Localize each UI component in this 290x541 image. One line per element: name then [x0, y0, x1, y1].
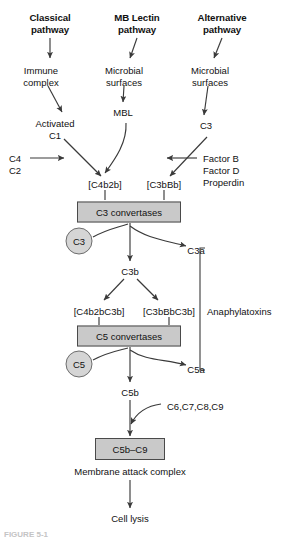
node-c3bbb: [C3bBb]	[147, 179, 181, 191]
node-microbial-surfaces-lectin: Microbialsurfaces	[105, 65, 143, 88]
complement-pathway-figure: Classicalpathway MB Lectinpathway Altern…	[0, 0, 290, 541]
activated-c1-line1: Activated	[35, 118, 74, 129]
microbial-surfaces-lectin-line2: surfaces	[106, 77, 142, 88]
anaphylatoxins-bracket	[200, 248, 205, 370]
header-classical-pathway: Classicalpathway	[29, 12, 70, 36]
immune-complex-line2: complex	[23, 77, 58, 88]
header-mb-lectin-line2: pathway	[118, 24, 156, 35]
node-microbial-surfaces-alternative: Microbialsurfaces	[191, 65, 229, 88]
node-cell-lysis: Cell lysis	[111, 513, 148, 525]
node-c5b: C5b	[121, 387, 138, 399]
activated-c1-line2: C1	[49, 130, 61, 141]
header-classical-line2: pathway	[31, 24, 69, 35]
header-alternative-line2: pathway	[203, 24, 241, 35]
figure-caption: FIGURE 5-1	[4, 530, 48, 539]
microbial-surfaces-lectin-line1: Microbial	[105, 65, 143, 76]
label-anaphylatoxins: Anaphylatoxins	[207, 306, 271, 318]
node-c3bbbc3b: [C3bBbC3b]	[143, 306, 195, 318]
node-factor-d: Factor D	[203, 165, 239, 177]
box-c5-convertases: C5 convertases	[77, 326, 181, 347]
header-alternative-line1: Alternative	[198, 12, 247, 23]
node-c4b2bc3b: [C4b2bC3b]	[74, 306, 125, 318]
circle-c3-substrate: C3	[66, 228, 93, 255]
node-immune-complex: Immunecomplex	[23, 65, 58, 88]
microbial-surfaces-alt-line1: Microbial	[191, 65, 229, 76]
node-c4b2b: [C4b2b]	[88, 179, 121, 191]
header-classical-line1: Classical	[29, 12, 70, 23]
node-c6-c7-c8-c9: C6,C7,C8,C9	[167, 401, 224, 413]
node-activated-c1: ActivatedC1	[35, 118, 74, 141]
header-alternative-pathway: Alternativepathway	[198, 12, 247, 36]
node-properdin: Properdin	[203, 177, 244, 189]
header-mb-lectin-pathway: MB Lectinpathway	[114, 12, 159, 36]
node-c2: C2	[9, 165, 21, 177]
node-c5a: C5a	[187, 364, 204, 376]
node-c4: C4	[9, 153, 21, 165]
node-c3b: C3b	[121, 266, 138, 278]
immune-complex-line1: Immune	[24, 65, 58, 76]
node-mbl: MBL	[113, 107, 133, 119]
node-membrane-attack-complex: Membrane attack complex	[74, 466, 185, 478]
node-c3a: C3a	[187, 245, 204, 257]
header-mb-lectin-line1: MB Lectin	[114, 12, 159, 23]
circle-c5-substrate: C5	[66, 351, 93, 378]
node-c3-alternative: C3	[200, 120, 212, 132]
box-c5b-c9: C5b–C9	[95, 438, 165, 460]
box-c3-convertases: C3 convertases	[77, 202, 181, 223]
microbial-surfaces-alt-line2: surfaces	[192, 77, 228, 88]
node-factor-b: Factor B	[203, 153, 239, 165]
